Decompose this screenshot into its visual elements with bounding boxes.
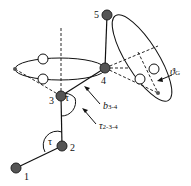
tau-label-3: τ <box>65 93 69 103</box>
b34-label: b3-4 <box>103 101 117 111</box>
open-circle <box>38 54 48 64</box>
dashed-left <box>15 69 61 96</box>
arrowhead-icon <box>82 108 88 113</box>
atom-label-4: 4 <box>101 76 106 86</box>
open-circle <box>149 64 159 74</box>
atom-5 <box>102 10 112 20</box>
open-circle <box>135 74 145 84</box>
atom-4 <box>100 63 110 73</box>
open-circle <box>38 74 48 84</box>
rotation-ellipse-right <box>102 7 182 109</box>
atom-label-5: 5 <box>94 10 99 20</box>
atom-1 <box>11 163 21 173</box>
tau-label-2: τ <box>48 137 52 147</box>
arrowhead-icon <box>157 77 163 82</box>
theta-g-label: ϑG <box>170 67 180 77</box>
arrow-b34 <box>86 88 100 104</box>
dashed-right-top <box>105 46 158 68</box>
atom-label-3: 3 <box>49 96 54 106</box>
bond-2-3 <box>61 96 62 146</box>
bond-4-5 <box>105 15 107 68</box>
atom-2 <box>57 141 67 151</box>
bond-1-2 <box>16 146 62 168</box>
atom-label-2: 2 <box>70 143 75 153</box>
arrowhead-icon <box>84 86 90 91</box>
atom-label-1: 1 <box>24 172 29 182</box>
tau234-label: τ2-3-4 <box>99 121 118 131</box>
point-left <box>13 67 17 71</box>
point-right <box>156 91 160 95</box>
torsion-diagram <box>0 0 191 186</box>
